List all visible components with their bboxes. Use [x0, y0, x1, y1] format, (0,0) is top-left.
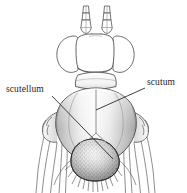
label-scutum: scutum — [147, 77, 176, 87]
head — [57, 34, 134, 74]
anatomy-drawing: scutellum scutum — [0, 0, 187, 193]
anatomy-figure: scutellum scutum — [0, 0, 187, 193]
label-scutellum: scutellum — [6, 84, 44, 94]
head-capsule — [76, 34, 114, 72]
collar — [75, 72, 116, 89]
